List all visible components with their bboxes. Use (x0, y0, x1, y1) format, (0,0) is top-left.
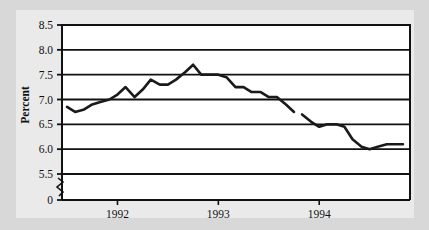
y-tick-label: 6.0 (39, 143, 54, 155)
y-tick-label: 7.0 (39, 94, 54, 106)
x-tick-label: 1994 (308, 208, 331, 220)
y-tick-label: 7.5 (39, 69, 54, 81)
y-tick-label: 5.5 (39, 168, 54, 180)
line-chart: 8.58.07.57.06.56.05.50 199219931994 Perc… (0, 0, 429, 230)
chart-figure: 8.58.07.57.06.56.05.50 199219931994 Perc… (0, 0, 429, 230)
y-tick-labels: 8.58.07.57.06.56.05.50 (39, 19, 54, 206)
y-tick-label: 8.0 (39, 44, 54, 56)
x-tick-label: 1992 (106, 208, 129, 220)
y-axis-title: Percent (19, 86, 31, 124)
x-tick-labels: 199219931994 (106, 208, 331, 220)
y-tick-label: 6.5 (39, 118, 54, 130)
y-tick-label: 8.5 (39, 19, 54, 31)
x-tick-label: 1993 (207, 208, 230, 220)
y-tick-label: 0 (47, 194, 53, 206)
